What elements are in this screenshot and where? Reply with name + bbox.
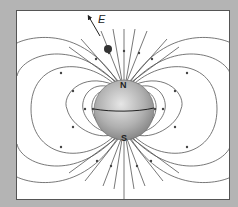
diagram-panel: N S E [16, 10, 230, 200]
charged-particle [104, 45, 112, 53]
south-pole-label: S [121, 133, 127, 143]
e-vector-label: E [98, 13, 105, 25]
north-pole-label: N [120, 80, 127, 90]
field-lines-diagram [17, 11, 230, 200]
